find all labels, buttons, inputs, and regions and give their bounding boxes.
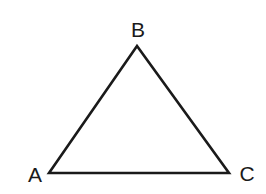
vertex-label-a: A [28, 163, 42, 186]
triangle-diagram: B A C [0, 0, 266, 194]
triangle-abc [49, 46, 229, 173]
vertex-label-c: C [239, 162, 254, 185]
vertex-label-b: B [131, 18, 145, 41]
